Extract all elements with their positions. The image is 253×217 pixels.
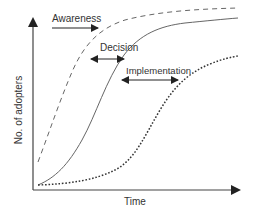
awareness-label: Awareness <box>52 13 101 24</box>
x-axis-title: Time <box>124 196 146 207</box>
adoption-curves-diagram: Awareness Decision Implementation No. of… <box>0 0 253 217</box>
decision-label: Decision <box>100 42 138 53</box>
y-axis-title: No. of adopters <box>13 76 24 144</box>
awareness-curve <box>38 8 238 162</box>
implementation-label: Implementation <box>126 65 191 76</box>
